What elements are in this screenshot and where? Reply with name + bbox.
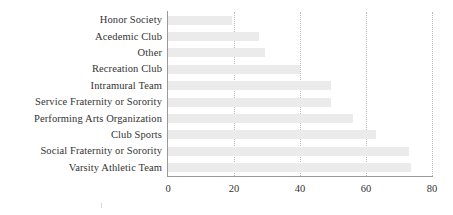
bar bbox=[168, 163, 411, 172]
bar bbox=[168, 130, 376, 139]
x-axis-tick-label: 0 bbox=[165, 183, 170, 195]
bar-row bbox=[168, 127, 432, 143]
y-axis-label: Service Fraternity or Sorority bbox=[0, 96, 162, 107]
y-axis-label: Performing Arts Organization bbox=[0, 113, 162, 124]
bar-row bbox=[168, 28, 432, 44]
y-axis-label: Club Sports bbox=[0, 129, 162, 140]
y-axis-label: Intramural Team bbox=[0, 80, 162, 91]
gridline bbox=[432, 12, 433, 176]
bar bbox=[168, 65, 300, 74]
y-axis-category-labels: Honor SocietyAcedemic ClubOtherRecreatio… bbox=[0, 12, 162, 176]
y-axis-label: Other bbox=[0, 47, 162, 58]
x-axis-tick-labels: 020406080 bbox=[0, 183, 453, 199]
bar-row bbox=[168, 45, 432, 61]
stray-artifact-mark bbox=[101, 203, 102, 208]
bar bbox=[168, 16, 232, 25]
bar-row bbox=[168, 110, 432, 126]
x-axis-tick-label: 60 bbox=[361, 183, 372, 195]
bar-row bbox=[168, 160, 432, 176]
y-axis-label: Honor Society bbox=[0, 14, 162, 25]
x-axis-tick-label: 80 bbox=[427, 183, 438, 195]
y-axis-label: Social Fraternity or Sorority bbox=[0, 145, 162, 156]
bar bbox=[168, 114, 353, 123]
x-axis-tick-label: 20 bbox=[229, 183, 240, 195]
bar-row bbox=[168, 61, 432, 77]
bar bbox=[168, 147, 409, 156]
bar-row bbox=[168, 94, 432, 110]
bar-row bbox=[168, 78, 432, 94]
plot-area bbox=[168, 12, 432, 176]
y-axis-label: Varsity Athletic Team bbox=[0, 162, 162, 173]
y-axis-label: Recreation Club bbox=[0, 63, 162, 74]
horizontal-bar-chart: Honor SocietyAcedemic ClubOtherRecreatio… bbox=[0, 0, 453, 215]
bar bbox=[168, 98, 331, 107]
bar-row bbox=[168, 143, 432, 159]
bar-row bbox=[168, 12, 432, 28]
x-axis-tick-label: 40 bbox=[295, 183, 306, 195]
x-axis-spine bbox=[167, 176, 433, 177]
bars-layer bbox=[168, 12, 432, 176]
bar bbox=[168, 81, 331, 90]
bar bbox=[168, 32, 259, 41]
bar bbox=[168, 48, 265, 57]
y-axis-label: Acedemic Club bbox=[0, 31, 162, 42]
